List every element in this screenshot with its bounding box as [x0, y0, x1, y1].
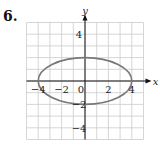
y-tick-label: 4: [76, 29, 82, 40]
y-tick-label: −2: [72, 99, 87, 110]
x-tick-label: −4: [31, 84, 46, 95]
axes: [27, 15, 152, 140]
x-tick-label: −2: [54, 84, 69, 95]
x-axis-label: x: [153, 76, 159, 87]
x-tick-label: 0: [78, 84, 84, 95]
x-tick-label: 4: [129, 84, 135, 95]
ellipse-graph: −4−20244−2−4xy: [0, 0, 160, 150]
y-tick-label: −4: [72, 123, 87, 134]
y-axis-label: y: [81, 5, 88, 16]
x-tick-label: 2: [105, 84, 111, 95]
x-arrow-icon: [146, 79, 152, 84]
